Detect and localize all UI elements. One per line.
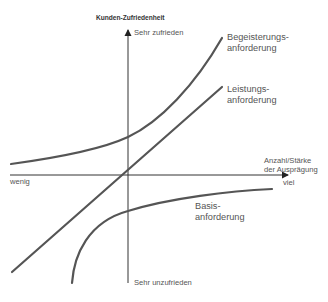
leistung-line [12,87,222,272]
x-axis-title-line2: der Ausprägung [264,165,318,174]
begeisterung-label: Begeisterungs- anforderung [227,32,289,53]
x-axis-title-line1: Anzahl/Stärke [264,156,318,165]
x-axis-left-label: wenig [10,177,30,186]
x-axis-title: Anzahl/Stärke der Ausprägung [264,156,318,175]
y-axis-bottom-label: Sehr unzufrieden [134,278,192,287]
basis-label: Basis- anforderung [195,201,245,222]
basis-label-line2: anforderung [195,212,245,223]
leistung-label: Leistungs- anforderung [227,84,277,105]
leistung-label-line2: anforderung [227,95,277,106]
y-axis-title: Kunden-Zufriedenheit [96,13,165,22]
begeisterung-label-line1: Begeisterungs- [227,32,289,43]
x-axis-right-label: viel [283,178,294,187]
begeisterung-curve [11,38,222,164]
y-axis-top-label: Sehr zufrieden [134,28,183,37]
leistung-label-line1: Leistungs- [227,84,277,95]
basis-label-line1: Basis- [195,201,245,212]
begeisterung-label-line2: anforderung [227,43,289,54]
